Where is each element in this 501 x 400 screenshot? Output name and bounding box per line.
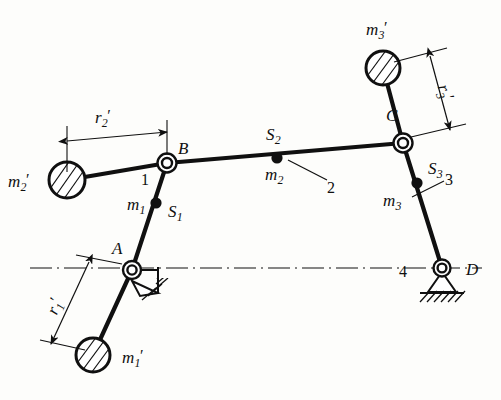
cm-label-S3-sub: 3 bbox=[437, 167, 443, 181]
joint-B bbox=[158, 154, 177, 173]
mass-label-m3: m3 bbox=[383, 192, 401, 213]
counterweight-label-m1-prime: m1′ bbox=[122, 348, 144, 370]
mass-label-m1-sub: 1 bbox=[140, 203, 146, 217]
link-number-2: 2 bbox=[327, 180, 335, 196]
cm-label-S2: S2 bbox=[266, 126, 281, 147]
dim-r2-prime: ′ bbox=[107, 107, 111, 124]
mass-label-m1: m1 bbox=[127, 196, 145, 217]
link-1-crank bbox=[93, 163, 167, 355]
leader-line-link-2 bbox=[288, 160, 327, 180]
cw-m3-base: m bbox=[366, 20, 378, 39]
joint-C bbox=[394, 134, 413, 153]
cw-m2-base: m bbox=[8, 172, 20, 191]
mass-label-m3-sub: 3 bbox=[396, 199, 402, 213]
point-label-B: B bbox=[178, 140, 188, 157]
dim-r2-base: r bbox=[95, 108, 102, 127]
counterweight-m3-prime bbox=[355, 40, 404, 93]
point-label-C: C bbox=[386, 107, 397, 124]
counterweight-m1-prime bbox=[65, 327, 114, 380]
link-number-3: 3 bbox=[445, 172, 453, 188]
center-of-mass-S2 bbox=[271, 152, 282, 163]
cm-label-S1-base: S bbox=[168, 202, 177, 221]
mass-label-m2: m2 bbox=[265, 166, 283, 187]
point-label-A: A bbox=[112, 240, 122, 257]
mechanism-drawing bbox=[0, 0, 501, 400]
cm-label-S2-base: S bbox=[266, 125, 275, 144]
mass-label-m1-base: m bbox=[127, 195, 139, 214]
link-number-1: 1 bbox=[141, 172, 149, 188]
center-of-mass-S3 bbox=[411, 177, 422, 188]
mass-label-m3-base: m bbox=[383, 191, 395, 210]
link-2-coupler bbox=[67, 143, 403, 180]
mass-label-m2-base: m bbox=[265, 165, 277, 184]
fixed-pivot-A bbox=[123, 261, 170, 300]
counterweight-label-m2-prime: m2′ bbox=[8, 172, 30, 194]
cm-label-S1: S1 bbox=[168, 203, 183, 224]
center-of-mass-S1 bbox=[150, 197, 161, 208]
counterweight-m2-prime bbox=[38, 151, 87, 206]
cm-label-S2-sub: 2 bbox=[275, 133, 281, 147]
cw-m1-prime: ′ bbox=[140, 347, 144, 364]
fixed-pivot-D bbox=[420, 260, 465, 303]
mechanism-figure: B C A D 1 2 3 4 S1 S2 S3 m1 m2 m3 m2′ m1… bbox=[0, 0, 501, 400]
point-label-D: D bbox=[466, 261, 478, 278]
cm-label-S3-base: S bbox=[428, 159, 437, 178]
counterweight-label-m3-prime: m3′ bbox=[366, 20, 388, 42]
cw-m2-prime: ′ bbox=[26, 171, 30, 188]
mass-label-m2-sub: 2 bbox=[278, 173, 284, 187]
cm-label-S3: S3 bbox=[428, 160, 443, 181]
cw-m1-base: m bbox=[122, 348, 134, 367]
cm-label-S1-sub: 1 bbox=[177, 210, 183, 224]
link-number-4: 4 bbox=[399, 264, 407, 280]
dimension-label-r2-prime: r2′ bbox=[95, 108, 111, 130]
cw-m3-prime: ′ bbox=[384, 19, 388, 36]
